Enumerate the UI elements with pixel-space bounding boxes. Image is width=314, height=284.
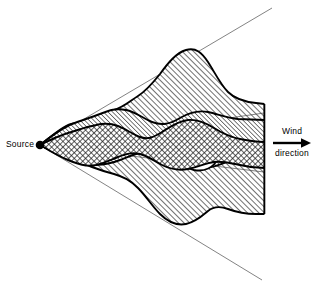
wind-label: Wind <box>271 126 313 137</box>
source-dot-icon <box>36 141 45 150</box>
figure-caption <box>4 276 310 284</box>
source-label: Source <box>6 139 34 149</box>
right-arrow-icon <box>272 138 312 148</box>
figure-root: Source Wind direction <box>0 0 314 284</box>
direction-label: direction <box>271 148 313 159</box>
wind-arrow-container <box>271 137 313 148</box>
plume-diagram <box>0 0 314 284</box>
wind-direction-annotation: Wind direction <box>271 126 313 159</box>
